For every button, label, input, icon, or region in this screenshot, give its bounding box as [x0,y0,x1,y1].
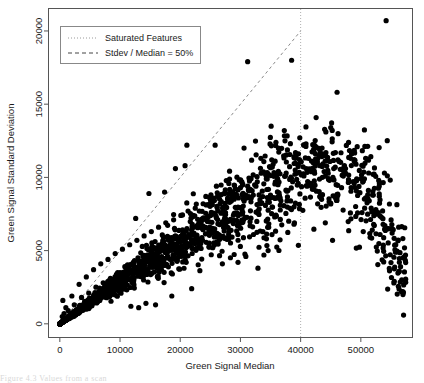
data-point [329,120,334,125]
data-point [265,225,270,230]
data-point [163,220,168,225]
data-point [196,262,201,267]
data-point [324,163,329,168]
data-point [385,138,390,143]
data-point [240,191,245,196]
data-point [222,191,227,196]
data-point [173,233,178,238]
data-point [393,250,398,255]
data-point [323,129,328,134]
data-point [219,249,224,254]
data-point [356,184,361,189]
data-point [334,182,339,187]
data-point [131,277,136,282]
data-point [335,131,340,136]
data-point [178,249,183,254]
legend-label-stdev-median: Stdev / Median = 50% [105,48,193,58]
data-point [261,235,266,240]
data-point [239,218,244,223]
data-point [340,167,345,172]
data-point [285,204,290,209]
data-point [115,270,120,275]
data-point [265,170,270,175]
x-tick-label: 20000 [167,344,193,355]
data-point [311,147,316,152]
data-point [266,187,271,192]
data-point [248,216,253,221]
data-point [134,238,139,243]
data-point [171,212,176,217]
data-point [309,184,314,189]
data-point [314,189,319,194]
data-point [113,251,118,256]
data-point [335,192,340,197]
data-point [149,271,154,276]
data-point [362,206,367,211]
data-point [176,254,181,259]
data-point [232,183,237,188]
data-point [172,227,177,232]
data-point [346,179,351,184]
data-point [284,159,289,164]
data-point [348,156,353,161]
data-point [353,162,358,167]
data-point [123,286,128,291]
data-point [203,194,208,199]
data-point [286,219,291,224]
data-point [376,210,381,215]
data-point [315,146,320,151]
data-point [114,282,119,287]
data-point [278,195,283,200]
data-point [154,248,159,253]
data-point [269,232,274,237]
data-point [375,248,380,253]
data-point [291,222,296,227]
data-point [250,224,255,229]
data-point [382,223,387,228]
y-axis-title: Green Signal Standard Deviation [5,104,16,243]
data-point [128,304,133,309]
data-point [341,207,346,212]
data-point [228,240,233,245]
data-point [204,240,209,245]
data-point [156,225,161,230]
data-point [283,211,288,216]
data-point [325,158,330,163]
data-point [346,228,351,233]
data-point [398,264,403,269]
data-point [136,305,141,310]
data-point [225,235,230,240]
x-tick-label: 40000 [287,344,313,355]
legend-label-saturated-features: Saturated Features [105,33,183,43]
data-point [91,267,96,272]
data-point [226,219,231,224]
data-point [353,204,358,209]
data-point [183,257,188,262]
data-point [278,203,283,208]
data-point [268,135,273,140]
data-point [349,151,354,156]
data-point [133,216,138,221]
data-point [188,219,193,224]
data-point [181,266,186,271]
data-point [355,193,360,198]
data-point [361,170,366,175]
data-point [227,200,232,205]
data-point [147,258,152,263]
data-point [131,260,136,265]
data-point [380,257,385,262]
data-point [394,202,399,207]
data-point [207,204,212,209]
data-point [66,316,71,321]
data-point [194,223,199,228]
data-point [205,219,210,224]
data-point [167,256,172,261]
data-point [396,238,401,243]
data-point [91,296,96,301]
data-point [400,236,405,241]
data-point [276,248,281,253]
data-point [248,176,253,181]
data-point [149,229,154,234]
data-point [274,173,279,178]
data-point [298,159,303,164]
